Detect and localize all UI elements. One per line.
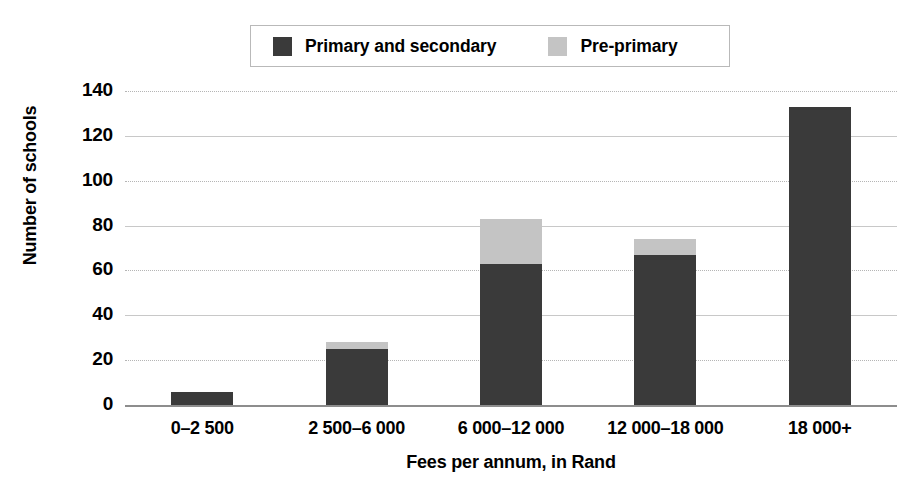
- bar-stack[interactable]: [789, 107, 851, 405]
- chart-legend: Primary and secondary Pre-primary: [250, 25, 730, 67]
- bar-stack[interactable]: [171, 392, 233, 405]
- bar-segment[interactable]: [634, 255, 696, 405]
- legend-swatch-icon: [548, 37, 567, 56]
- bar-group[interactable]: [743, 91, 897, 405]
- y-axis-tick-label: 20: [3, 348, 113, 370]
- bar-chart: Primary and secondary Pre-primary 140120…: [0, 0, 917, 497]
- bar-segment[interactable]: [789, 107, 851, 405]
- legend-entry-pre-primary: Pre-primary: [548, 36, 677, 57]
- bar-segment[interactable]: [480, 219, 542, 264]
- x-axis-tick-label: 6 000–12 000: [434, 418, 588, 439]
- bar-group[interactable]: [434, 91, 588, 405]
- y-axis-ticks: 140120100806040200: [0, 91, 113, 405]
- bar-segment[interactable]: [326, 349, 388, 405]
- bar-segment[interactable]: [171, 392, 233, 405]
- bar-segment[interactable]: [634, 239, 696, 255]
- x-axis-ticks: 0–2 5002 500–6 0006 000–12 00012 000–18 …: [125, 418, 897, 444]
- bar-stack[interactable]: [480, 219, 542, 405]
- bar-stack[interactable]: [634, 239, 696, 405]
- legend-swatch-icon: [273, 37, 292, 56]
- x-axis-tick-label: 0–2 500: [125, 418, 279, 439]
- plot-area: [125, 91, 897, 405]
- y-axis-title: Number of schools: [20, 63, 41, 308]
- bar-group[interactable]: [125, 91, 279, 405]
- x-axis-line: [125, 405, 897, 407]
- legend-label: Pre-primary: [580, 36, 677, 57]
- legend-label: Primary and secondary: [305, 36, 496, 57]
- x-axis-tick-label: 12 000–18 000: [588, 418, 742, 439]
- x-axis-tick-label: 18 000+: [743, 418, 897, 439]
- x-axis-tick-label: 2 500–6 000: [279, 418, 433, 439]
- bar-group[interactable]: [588, 91, 742, 405]
- y-axis-tick-label: 0: [3, 393, 113, 415]
- bar-series-group: [125, 91, 897, 405]
- x-axis-title: Fees per annum, in Rand: [125, 452, 897, 473]
- bar-segment[interactable]: [326, 342, 388, 349]
- bar-stack[interactable]: [326, 342, 388, 405]
- bar-segment[interactable]: [480, 264, 542, 405]
- legend-entry-primary-and-secondary: Primary and secondary: [273, 36, 496, 57]
- bar-group[interactable]: [279, 91, 433, 405]
